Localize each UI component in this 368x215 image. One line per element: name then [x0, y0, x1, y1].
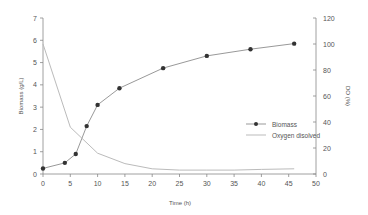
biomass-do-chart: 0123456702040608010012005101520253035404… [0, 0, 368, 215]
axes: 0123456702040608010012005101520253035404… [33, 15, 335, 188]
biomass-marker [95, 103, 99, 107]
y-tick-label: 3 [33, 104, 37, 111]
y2-tick-label: 20 [323, 145, 331, 152]
biomass-marker [205, 54, 209, 58]
biomass-line [43, 44, 294, 169]
y-axis-label: Biomass (g/L) [18, 77, 24, 114]
legend-marker [254, 122, 258, 126]
y-tick-label: 7 [33, 15, 37, 22]
y-tick-label: 4 [33, 81, 37, 88]
x-tick-label: 5 [68, 180, 72, 187]
x-tick-label: 50 [312, 180, 320, 187]
series-layer [41, 41, 297, 170]
y2-tick-label: 40 [323, 119, 331, 126]
y2-tick-label: 80 [323, 67, 331, 74]
y2-tick-label: 60 [323, 93, 331, 100]
legend: BiomassOxygen disolved [246, 121, 320, 140]
biomass-marker [84, 124, 88, 128]
biomass-marker [161, 66, 165, 70]
x-tick-label: 30 [203, 180, 211, 187]
oxygen-line [43, 44, 294, 170]
y-tick-label: 6 [33, 37, 37, 44]
x-tick-label: 40 [258, 180, 266, 187]
x-tick-label: 10 [94, 180, 102, 187]
y2-axis-label: DO (%) [345, 86, 351, 106]
y-tick-label: 5 [33, 59, 37, 66]
x-tick-label: 35 [230, 180, 238, 187]
x-tick-label: 45 [285, 180, 293, 187]
y-tick-label: 0 [33, 171, 37, 178]
y2-tick-label: 100 [323, 41, 335, 48]
biomass-marker [74, 152, 78, 156]
biomass-marker [248, 47, 252, 51]
y-tick-label: 1 [33, 148, 37, 155]
x-axis-label: Time (h) [169, 200, 191, 206]
x-tick-label: 20 [148, 180, 156, 187]
biomass-marker [292, 41, 296, 45]
x-tick-label: 0 [41, 180, 45, 187]
legend-label: Biomass [272, 121, 298, 128]
y2-tick-label: 0 [323, 171, 327, 178]
legend-label: Oxygen disolved [272, 132, 320, 140]
y-tick-label: 2 [33, 126, 37, 133]
y2-tick-label: 120 [323, 15, 335, 22]
x-tick-label: 15 [121, 180, 129, 187]
chart-canvas: 0123456702040608010012005101520253035404… [0, 0, 368, 215]
x-tick-label: 25 [176, 180, 184, 187]
biomass-marker [117, 86, 121, 90]
biomass-marker [41, 166, 45, 170]
biomass-marker [63, 161, 67, 165]
